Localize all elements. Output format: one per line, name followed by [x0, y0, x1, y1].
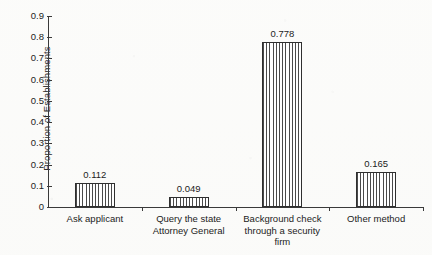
- category-label-line: firm: [236, 236, 330, 248]
- y-tick-label: 0.9: [31, 10, 44, 21]
- y-tick-label: 0.3: [31, 137, 44, 148]
- y-tick-mark: [47, 101, 52, 102]
- x-tick-mark: [142, 207, 143, 211]
- category-label-line: Query the state: [142, 213, 236, 225]
- category-label-line: Background check: [236, 213, 330, 225]
- y-tick-mark: [47, 165, 52, 166]
- bar-value-label: 0.165: [364, 158, 388, 169]
- bar-1: 0.112: [75, 183, 115, 207]
- y-tick-label: 0.4: [31, 116, 44, 127]
- y-tick-label: 0.8: [31, 31, 44, 42]
- y-tick-label: 0.7: [31, 52, 44, 63]
- bar-value-label: 0.778: [270, 28, 294, 39]
- x-tick-mark: [236, 207, 237, 211]
- y-tick-mark: [47, 186, 52, 187]
- plot-area: 00.10.20.30.40.50.60.70.80.9 0.1120.0490…: [48, 16, 423, 207]
- category-label-line: Ask applicant: [48, 213, 142, 225]
- category-label-line: through a security: [236, 225, 330, 237]
- bar-2: 0.049: [169, 197, 209, 207]
- category-label-4: Other method: [329, 213, 423, 225]
- category-label-line: Attorney General: [142, 225, 236, 237]
- category-label-2: Query the stateAttorney General: [142, 213, 236, 236]
- y-tick-label: 0: [39, 201, 44, 212]
- x-tick-mark: [329, 207, 330, 211]
- bar-4: 0.165: [356, 172, 396, 207]
- y-axis-line: [48, 16, 49, 208]
- bar-value-label: 0.112: [83, 169, 106, 180]
- category-label-3: Background checkthrough a securityfirm: [236, 213, 330, 248]
- bar-value-label: 0.049: [177, 183, 201, 194]
- category-label-line: Other method: [329, 213, 423, 225]
- y-tick-mark: [47, 37, 52, 38]
- category-label-1: Ask applicant: [48, 213, 142, 225]
- y-tick-label: 0.1: [31, 180, 44, 191]
- x-tick-mark: [423, 207, 424, 211]
- y-tick-mark: [47, 143, 52, 144]
- y-tick-label: 0.2: [31, 159, 44, 170]
- y-tick-label: 0.6: [31, 74, 44, 85]
- y-tick-mark: [47, 58, 52, 59]
- y-tick-mark: [47, 122, 52, 123]
- y-tick-mark: [47, 80, 52, 81]
- bar-chart-figure: Proportion of Establishments 00.10.20.30…: [0, 0, 432, 255]
- y-tick-mark: [47, 16, 52, 17]
- bar-3: 0.778: [262, 42, 302, 207]
- y-tick-label: 0.5: [31, 95, 44, 106]
- y-tick-mark: [47, 207, 52, 208]
